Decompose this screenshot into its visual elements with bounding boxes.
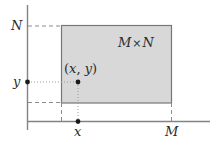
x-value-label: x (74, 125, 81, 138)
point-comma: , (76, 61, 80, 76)
region-label-right: N (143, 35, 154, 50)
y-axis-top-label: N (11, 19, 22, 32)
point-close-paren: ) (92, 61, 97, 76)
y-value-label: y (13, 75, 20, 88)
region-label: M×N (118, 36, 154, 49)
region-label-left: M (118, 35, 131, 50)
figure-canvas (0, 0, 219, 146)
x-axis-right-label: M (165, 125, 178, 138)
rectangle-region-figure: N y x M M×N (x, y) (0, 0, 219, 146)
point-y: y (85, 61, 92, 76)
y-tick-point (25, 80, 30, 85)
multiplication-sign-icon: × (131, 37, 142, 50)
point-coordinate-label: (x, y) (64, 62, 97, 75)
xy-point (76, 80, 81, 85)
